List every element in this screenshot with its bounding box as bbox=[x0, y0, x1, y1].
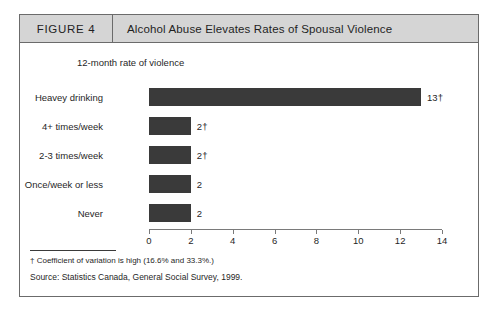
figure-title: Alcohol Abuse Elevates Rates of Spousal … bbox=[127, 23, 392, 35]
axis-tick bbox=[233, 230, 234, 234]
source-text: Source: Statistics Canada, General Socia… bbox=[30, 272, 242, 282]
bar-fill bbox=[149, 204, 191, 222]
bar-row: Heavey drinking13† bbox=[20, 82, 478, 111]
figure-footer: † Coefficient of variation is high (16.6… bbox=[20, 248, 478, 296]
bar-category-label: 2-3 times/week bbox=[39, 149, 103, 160]
bar-category-label: 4+ times/week bbox=[42, 120, 103, 131]
bar-row: 2-3 times/week2† bbox=[20, 140, 478, 169]
bar-row: 4+ times/week2† bbox=[20, 111, 478, 140]
bar-chart-plot: Heavey drinking13†4+ times/week2†2-3 tim… bbox=[20, 76, 478, 236]
axis-tick bbox=[316, 230, 317, 234]
bar-fill bbox=[149, 88, 421, 106]
axis-tick-label: 8 bbox=[314, 235, 319, 246]
figure-box: FIGURE 4 Alcohol Abuse Elevates Rates of… bbox=[19, 14, 479, 297]
axis-tick-label: 4 bbox=[230, 235, 235, 246]
bar-value-label: 2 bbox=[197, 178, 202, 189]
axis-tick-label: 12 bbox=[395, 235, 406, 246]
figure-number-cell: FIGURE 4 bbox=[20, 15, 113, 42]
bar-value-label: 2† bbox=[197, 149, 208, 160]
axis-tick-label: 6 bbox=[272, 235, 277, 246]
bar bbox=[149, 88, 421, 106]
bar-fill bbox=[149, 117, 191, 135]
figure-number-label: FIGURE 4 bbox=[37, 23, 96, 35]
bar-value-label: 13† bbox=[427, 91, 443, 102]
x-axis-line bbox=[149, 229, 442, 230]
figure-header: FIGURE 4 Alcohol Abuse Elevates Rates of… bbox=[20, 15, 478, 43]
bar-category-label: Heavey drinking bbox=[35, 91, 103, 102]
bar-row: Once/week or less2 bbox=[20, 169, 478, 198]
bar-row: Never2 bbox=[20, 198, 478, 227]
bar-category-label: Never bbox=[78, 207, 103, 218]
bar-value-label: 2† bbox=[197, 120, 208, 131]
axis-tick bbox=[442, 230, 443, 234]
axis-tick-label: 10 bbox=[353, 235, 364, 246]
axis-tick bbox=[149, 230, 150, 234]
axis-tick bbox=[275, 230, 276, 234]
bar bbox=[149, 204, 191, 222]
footnote-text: † Coefficient of variation is high (16.6… bbox=[30, 256, 214, 265]
axis-tick bbox=[400, 230, 401, 234]
bar bbox=[149, 117, 191, 135]
bar-fill bbox=[149, 175, 191, 193]
axis-tick bbox=[358, 230, 359, 234]
axis-tick-label: 0 bbox=[146, 235, 151, 246]
bar-value-label: 2 bbox=[197, 207, 202, 218]
bar bbox=[149, 146, 191, 164]
footnote-rule bbox=[30, 250, 116, 251]
axis-tick-label: 2 bbox=[188, 235, 193, 246]
chart-region: 12-month rate of violence Heavey drinkin… bbox=[20, 43, 478, 248]
axis-tick bbox=[191, 230, 192, 234]
bar-fill bbox=[149, 146, 191, 164]
axis-tick-label: 14 bbox=[437, 235, 448, 246]
chart-subtitle: 12-month rate of violence bbox=[77, 57, 184, 68]
bar bbox=[149, 175, 191, 193]
bar-category-label: Once/week or less bbox=[25, 178, 103, 189]
figure-title-cell: Alcohol Abuse Elevates Rates of Spousal … bbox=[113, 15, 478, 42]
